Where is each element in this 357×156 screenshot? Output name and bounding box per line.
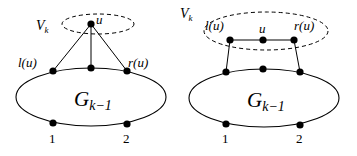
r-u-label: r(u) [128,55,148,70]
l-u-label: l(u) [18,55,37,70]
edge-right-down [294,40,300,72]
vk-label: Vk [180,6,194,23]
node-r-u [290,36,297,43]
node-1 [49,119,56,126]
label-2: 2 [123,131,130,146]
node-2 [296,121,303,128]
u-label: u [96,12,103,27]
label-2: 2 [296,131,303,146]
node-l-u [49,67,56,74]
node-ring-mid [259,65,266,72]
r-u-label: r(u) [294,18,314,33]
edge-left-down [226,40,230,72]
right-diagram: Vk l(u) u r(u) Gk−1 1 2 [180,6,339,146]
g-km1-ellipse [16,68,166,126]
node-ring-left [222,68,229,75]
graph-label: Gk−1 [74,87,112,113]
g-km1-ellipse [189,69,339,127]
node-u [87,20,94,27]
u-label: u [259,21,266,36]
graph-label: Gk−1 [247,88,285,114]
node-u [259,36,266,43]
node-mid [87,64,94,71]
vk-label: Vk [36,18,50,35]
label-1: 1 [222,131,229,146]
diagram-canvas: Vk u l(u) r(u) Gk−1 1 2 Vk l(u) u r(u) G… [0,0,357,156]
left-diagram: Vk u l(u) r(u) Gk−1 1 2 [16,12,166,146]
node-1 [222,120,229,127]
label-1: 1 [49,131,56,146]
node-l-u [226,36,233,43]
node-2 [123,120,130,127]
l-u-label: l(u) [205,18,224,33]
node-ring-right [296,68,303,75]
